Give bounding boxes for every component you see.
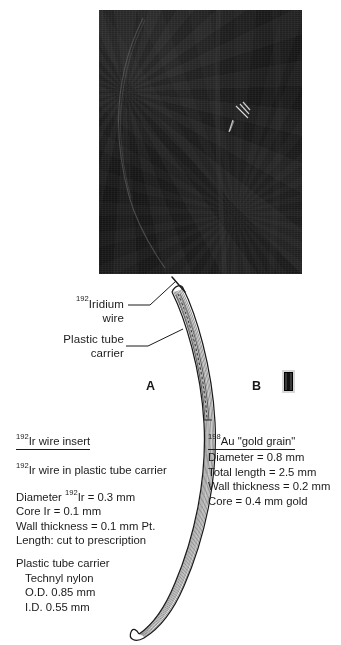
spacer <box>16 478 201 486</box>
au-spec-diameter: Diameter = 0.8 mm <box>208 450 340 465</box>
au-heading-text: Au "gold grain" <box>221 435 296 447</box>
carrier-material: Technyl nylon <box>16 571 201 586</box>
callout-plastic-tube-carrier: Plastic tube carrier <box>14 332 124 360</box>
ir-spec-diameter-pre: Diameter <box>16 491 65 503</box>
panel-letter-a: A <box>146 379 155 393</box>
leader-line-plastic-tube <box>126 329 183 346</box>
carrier-outer-diameter: O.D. 0.85 mm <box>16 585 201 600</box>
leader-line-iridium-wire <box>128 281 176 305</box>
ir-heading-superscript: 192 <box>16 432 29 441</box>
ir-spec-diameter-post: Ir = 0.3 mm <box>78 491 135 503</box>
ir-block-heading: 192Ir wire insert <box>16 430 90 450</box>
iridium-wire-stub <box>172 277 185 292</box>
gold-grain-icon <box>282 370 295 393</box>
ir-block-subtitle: 192Ir wire in plastic tube carrier <box>16 459 201 478</box>
text-block-gold-grain: 198Au "gold grain" Diameter = 0.8 mm Tot… <box>208 430 340 508</box>
spacer <box>16 451 201 459</box>
radiograph-features <box>99 10 302 274</box>
carrier-inner-diameter: I.D. 0.55 mm <box>16 600 201 615</box>
ir-spec-diameter: Diameter 192Ir = 0.3 mm <box>16 486 201 505</box>
spacer <box>16 548 201 556</box>
au-block-heading: 198Au "gold grain" <box>208 430 295 450</box>
figure-root: 192Iridium wire Plastic tube carrier A B… <box>0 0 341 645</box>
au-spec-wall: Wall thickness = 0.2 mm <box>208 479 340 494</box>
callout-iridium-line1: Iridium <box>89 298 124 310</box>
panel-letter-b: B <box>252 379 261 393</box>
callout-iridium-superscript: 192 <box>76 294 89 303</box>
ir-heading-text: Ir wire insert <box>29 435 91 447</box>
text-block-iridium-insert: 192Ir wire insert 192Ir wire in plastic … <box>16 430 201 614</box>
au-heading-superscript: 198 <box>208 432 221 441</box>
radiograph-image <box>99 10 302 274</box>
callout-carrier-line2: carrier <box>91 347 124 359</box>
callout-iridium-line2: wire <box>103 312 125 324</box>
ir-spec-length: Length: cut to prescription <box>16 533 201 548</box>
callout-iridium-wire: 192Iridium wire <box>14 292 124 325</box>
ir-subtitle-text: Ir wire in plastic tube carrier <box>29 464 167 476</box>
ir-spec-diameter-superscript: 192 <box>65 488 78 497</box>
callout-carrier-line1: Plastic tube <box>63 333 124 345</box>
au-spec-total-length: Total length = 2.5 mm <box>208 465 340 480</box>
ir-subtitle-superscript: 192 <box>16 461 29 470</box>
carrier-title: Plastic tube carrier <box>16 556 201 571</box>
ir-spec-wall: Wall thickness = 0.1 mm Pt. <box>16 519 201 534</box>
ir-spec-core: Core Ir = 0.1 mm <box>16 504 201 519</box>
au-spec-core: Core = 0.4 mm gold <box>208 494 340 509</box>
